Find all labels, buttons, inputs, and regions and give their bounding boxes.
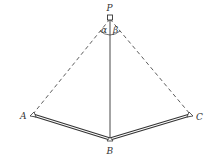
- label-C: C: [196, 112, 203, 122]
- line-PC: [110, 19, 190, 114]
- label-A: A: [19, 111, 27, 121]
- diagram-canvas: P α β A B C: [0, 0, 212, 159]
- label-alpha: α: [101, 25, 107, 35]
- rod-AB: [33, 115, 110, 139]
- hinge-A: [30, 112, 36, 117]
- label-P: P: [106, 3, 114, 13]
- hinge-C: [187, 112, 193, 117]
- label-B: B: [106, 146, 114, 156]
- label-beta: β: [112, 25, 118, 35]
- pivot-P: [108, 15, 113, 20]
- line-PA: [33, 19, 110, 114]
- rod-BC: [110, 115, 190, 139]
